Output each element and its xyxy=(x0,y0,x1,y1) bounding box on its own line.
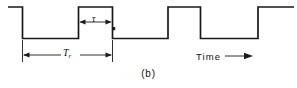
pulse-width-label: τ xyxy=(92,14,95,24)
edge-tick-mark xyxy=(112,27,115,30)
time-axis-label: Time xyxy=(196,51,221,62)
tr-arrow-left-icon xyxy=(23,52,30,57)
pulse-train-waveform xyxy=(8,7,294,39)
pulse-train-figure: τ Tr Time (b) xyxy=(0,0,297,88)
time-arrow-head-icon xyxy=(244,53,253,59)
period-subscript: r xyxy=(69,52,72,60)
tr-arrow-right-icon xyxy=(106,52,113,57)
period-label: Tr xyxy=(63,47,71,60)
figure-caption: (b) xyxy=(0,68,297,79)
tau-arrow-left-icon xyxy=(79,20,85,25)
tau-arrow-right-icon xyxy=(106,20,112,25)
time-arrow-group xyxy=(225,53,253,59)
tau-dimension-group xyxy=(79,20,111,25)
